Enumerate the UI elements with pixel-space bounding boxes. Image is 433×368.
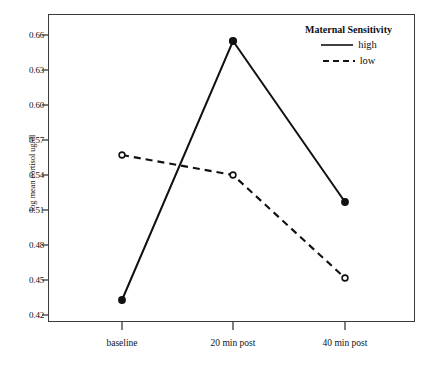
legend-entry-low: low: [286, 56, 411, 67]
x-tick-label-40-min-post: 40 min post: [305, 339, 385, 349]
x-tick-label-baseline: baseline: [82, 339, 162, 349]
y-tick-label-0-42: 0.42: [18, 311, 44, 320]
dashed-line-key-icon: [322, 56, 356, 66]
legend-entry-high: high: [286, 40, 411, 51]
x-tick-label-20-min-post: 20 min post: [193, 339, 273, 349]
y-tick-label-0-51: 0.51: [18, 206, 44, 215]
legend-label-low: low: [360, 56, 376, 67]
y-tick-label-0-63: 0.63: [18, 66, 44, 75]
y-tick-label-0-45: 0.45: [18, 276, 44, 285]
legend: Maternal Sensitivity high low: [286, 24, 411, 66]
chart-figure: log mean cortisol ug/dl 0.66 0.63 0.60 0…: [0, 0, 433, 368]
y-tick-label-0-54: 0.54: [18, 171, 44, 180]
solid-line-key-icon: [320, 40, 354, 50]
y-tick-label-0-48: 0.48: [18, 241, 44, 250]
y-tick-label-0-66: 0.66: [18, 31, 44, 40]
legend-title: Maternal Sensitivity: [286, 24, 411, 35]
y-tick-label-0-60: 0.60: [18, 101, 44, 110]
y-tick-label-0-57: 0.57: [18, 136, 44, 145]
legend-label-high: high: [358, 40, 377, 51]
x-axis-ticks: [122, 322, 345, 330]
